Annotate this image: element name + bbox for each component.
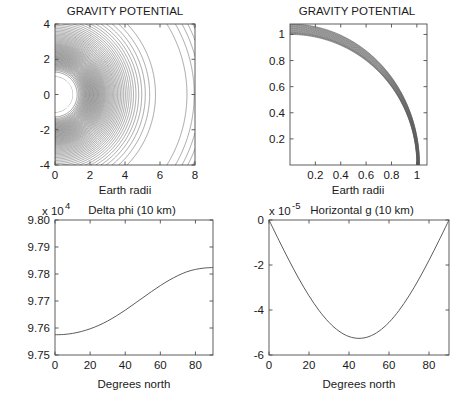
gravity-potential-wide-svg: GRAVITY POTENTIAL 02468-4-2024 Earth rad…	[0, 0, 232, 200]
y-exponent-power: 4	[65, 200, 70, 211]
y-tick-label: -4	[254, 304, 265, 316]
contour-line	[290, 33, 417, 165]
contour-line	[182, 133, 195, 165]
contour-line	[119, 24, 150, 165]
x-tick-label: 0	[52, 359, 58, 371]
x-tick-label: 4	[122, 169, 129, 181]
x-axis-label: Degrees north	[323, 378, 396, 390]
x-tick-label: 80	[189, 359, 202, 371]
data-series-line	[269, 220, 449, 338]
x-tick-label: 6	[157, 169, 163, 181]
x-tick-label: 0.4	[333, 169, 350, 181]
x-tick-label: 60	[383, 359, 396, 371]
axis-frame	[55, 220, 213, 355]
contour-line	[167, 24, 187, 165]
subplot-title: GRAVITY POTENTIAL	[67, 5, 184, 17]
x-tick-label: 2	[87, 169, 93, 181]
contour-group	[290, 24, 419, 165]
x-tick-label: 0.2	[307, 169, 323, 181]
x-tick-label: 0	[52, 169, 58, 181]
x-tick-label: 0	[266, 359, 272, 371]
x-tick-label: 0.8	[383, 169, 399, 181]
y-tick-label: 9.78	[28, 268, 50, 280]
data-series-line	[55, 268, 213, 335]
contour-line	[106, 24, 142, 165]
y-tick-label: 0	[258, 214, 264, 226]
subplot-delta-phi: Delta phi (10 km) x 10 4 0204060809.759.…	[0, 198, 232, 395]
plot-area	[290, 24, 419, 165]
y-tick-label: 9.79	[28, 241, 50, 253]
y-tick-label: 4	[44, 18, 51, 30]
x-tick-label: 80	[423, 359, 436, 371]
subplot-gravity-potential-zoom: GRAVITY POTENTIAL 0.20.40.60.810.20.40.6…	[232, 0, 465, 200]
y-tick-label: -6	[254, 349, 264, 361]
subplot-gravity-potential-wide: GRAVITY POTENTIAL 02468-4-2024 Earth rad…	[0, 0, 232, 200]
contour-group	[55, 24, 195, 165]
contour-line	[290, 33, 417, 165]
y-tick-label: -2	[254, 259, 264, 271]
axis-ticks: 020406080-6-4-20	[254, 214, 449, 371]
y-tick-label: 9.76	[28, 322, 50, 334]
y-tick-label: 0	[44, 89, 50, 101]
figure-canvas: GRAVITY POTENTIAL 02468-4-2024 Earth rad…	[0, 0, 465, 395]
y-exponent-power: -5	[292, 200, 300, 211]
y-tick-label: -4	[40, 159, 51, 171]
axis-frame	[269, 220, 449, 355]
contour-line	[290, 34, 417, 165]
subplot-title: Horizontal g (10 km)	[310, 204, 414, 216]
y-tick-label: 2	[44, 53, 50, 65]
y-tick-label: 0.4	[269, 107, 286, 119]
y-tick-label: 1	[279, 28, 285, 40]
x-tick-label: 0.6	[358, 169, 374, 181]
y-tick-label: 9.77	[28, 295, 50, 307]
contour-line	[290, 34, 417, 165]
y-tick-label: 0.8	[269, 55, 285, 67]
contour-line	[96, 24, 136, 165]
x-tick-label: 1	[414, 169, 420, 181]
x-tick-label: 60	[154, 359, 167, 371]
plot-area	[55, 268, 213, 335]
axis-frame	[55, 24, 195, 165]
contour-line	[112, 24, 145, 165]
x-tick-label: 40	[119, 359, 132, 371]
x-tick-label: 20	[84, 359, 97, 371]
x-axis-label: Earth radii	[332, 184, 384, 196]
y-exponent-base: x 10	[269, 205, 291, 217]
horizontal-g-svg: Horizontal g (10 km) x 10 -5 020406080-6…	[232, 198, 465, 395]
y-tick-label: 0.2	[269, 133, 285, 145]
gravity-potential-zoom-svg: GRAVITY POTENTIAL 0.20.40.60.810.20.40.6…	[232, 0, 465, 200]
y-tick-label: -2	[40, 124, 50, 136]
x-tick-label: 40	[343, 359, 356, 371]
x-tick-label: 20	[303, 359, 316, 371]
subplot-title: GRAVITY POTENTIAL	[299, 5, 416, 17]
y-tick-label: 9.75	[28, 349, 50, 361]
plot-area	[269, 220, 449, 338]
y-tick-label: 9.80	[28, 214, 50, 226]
contour-line	[182, 24, 195, 56]
x-axis-label: Degrees north	[98, 378, 171, 390]
subplot-title: Delta phi (10 km)	[88, 204, 176, 216]
x-tick-label: 8	[192, 169, 198, 181]
delta-phi-svg: Delta phi (10 km) x 10 4 0204060809.759.…	[0, 198, 232, 395]
y-tick-label: 0.6	[269, 81, 285, 93]
plot-area	[55, 24, 195, 165]
subplot-horizontal-g: Horizontal g (10 km) x 10 -5 020406080-6…	[232, 198, 465, 395]
x-axis-label: Earth radii	[99, 184, 151, 196]
